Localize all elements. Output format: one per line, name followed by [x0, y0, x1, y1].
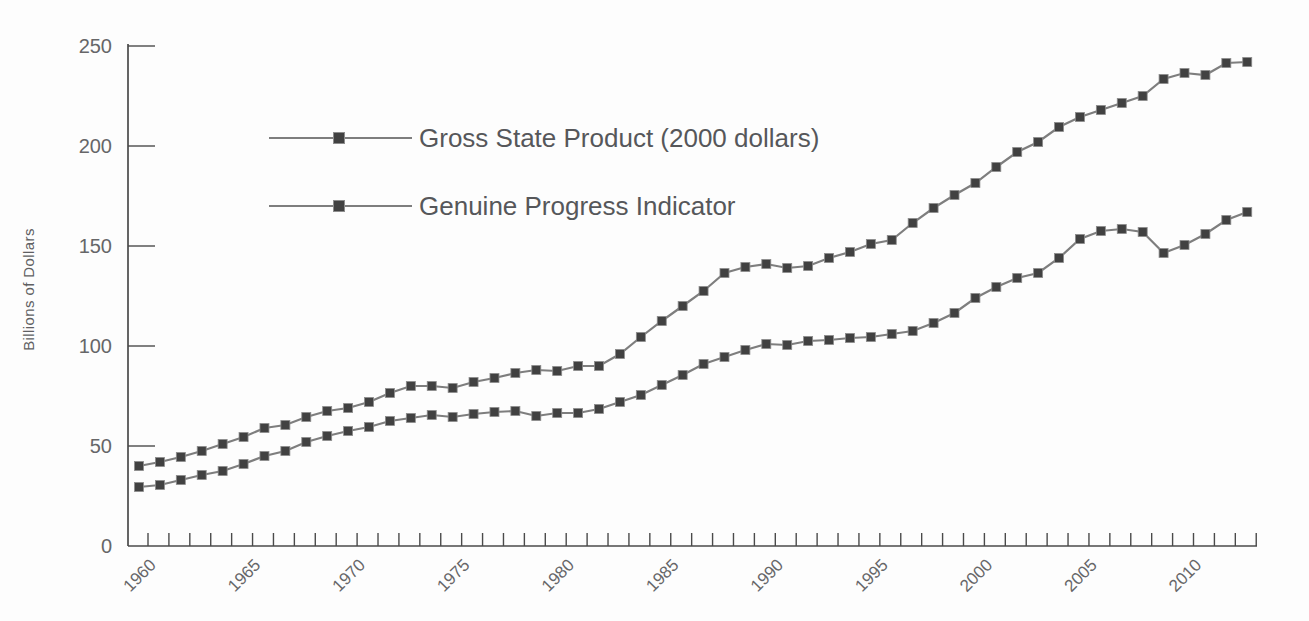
- gsp-data-marker: [1243, 58, 1252, 67]
- y-tick-label: 200: [79, 135, 112, 157]
- gpi-data-marker: [302, 438, 311, 447]
- x-tick-label: 1995: [851, 555, 891, 595]
- gpi-data-marker: [720, 353, 729, 362]
- gpi-data-marker: [344, 427, 353, 436]
- gsp-data-marker: [197, 447, 206, 456]
- gpi-data-marker: [406, 414, 415, 423]
- gpi-data-marker: [1075, 235, 1084, 244]
- gsp-data-marker: [385, 389, 394, 398]
- gpi-data-marker: [553, 409, 562, 418]
- gsp-data-marker: [1159, 75, 1168, 84]
- gsp-data-marker: [699, 287, 708, 296]
- gsp-data-marker: [992, 163, 1001, 172]
- gpi-data-marker: [155, 481, 164, 490]
- gpi-data-marker: [783, 341, 792, 350]
- gpi-data-marker: [1117, 225, 1126, 234]
- chart-figure: 0501001502002501960196519701975198019851…: [0, 0, 1309, 621]
- x-tick-label: 1965: [224, 555, 264, 595]
- legend-label-gpi: Genuine Progress Indicator: [419, 191, 736, 222]
- gsp-data-marker: [490, 374, 499, 383]
- gpi-data-marker: [908, 327, 917, 336]
- gpi-data-marker: [866, 333, 875, 342]
- gsp-data-marker: [887, 236, 896, 245]
- gsp-data-marker: [1201, 71, 1210, 80]
- x-tick-label: 2010: [1165, 555, 1205, 595]
- x-tick-label: 1985: [642, 555, 682, 595]
- gpi-data-marker: [1222, 216, 1231, 225]
- gsp-data-marker: [448, 384, 457, 393]
- gsp-data-marker: [615, 350, 624, 359]
- gpi-data-marker: [365, 423, 374, 432]
- y-tick-label: 100: [79, 335, 112, 357]
- gpi-data-marker: [260, 452, 269, 461]
- gsp-data-marker: [1075, 113, 1084, 122]
- gpi-data-marker: [323, 432, 332, 441]
- legend-item-gsp: Gross State Product (2000 dollars): [269, 121, 819, 155]
- y-axis-title: Billions of Dollars: [20, 210, 37, 370]
- gsp-data-marker: [845, 248, 854, 257]
- gsp-data-marker: [532, 366, 541, 375]
- gsp-data-marker: [908, 219, 917, 228]
- gsp-data-marker: [281, 421, 290, 430]
- gpi-data-marker: [427, 411, 436, 420]
- gsp-data-marker: [783, 264, 792, 273]
- x-tick-label: 1990: [747, 555, 787, 595]
- gsp-data-marker: [218, 440, 227, 449]
- gsp-data-marker: [678, 302, 687, 311]
- gpi-data-marker: [699, 360, 708, 369]
- gpi-data-marker: [741, 346, 750, 355]
- gpi-data-marker: [636, 391, 645, 400]
- gpi-data-marker: [887, 330, 896, 339]
- gsp-data-marker: [1034, 138, 1043, 147]
- gpi-data-marker: [1201, 230, 1210, 239]
- gpi-data-marker: [804, 337, 813, 346]
- gsp-data-marker: [302, 413, 311, 422]
- gsp-data-marker: [950, 191, 959, 200]
- x-tick-label: 1975: [433, 555, 473, 595]
- legend-square-marker-icon: [334, 201, 344, 211]
- gpi-data-marker: [1034, 269, 1043, 278]
- gsp-data-marker: [1117, 99, 1126, 108]
- gpi-data-marker: [971, 294, 980, 303]
- y-tick-label: 250: [79, 35, 112, 57]
- gpi-data-marker: [1138, 228, 1147, 237]
- gpi-data-marker: [1096, 227, 1105, 236]
- legend-label-gsp: Gross State Product (2000 dollars): [419, 123, 819, 154]
- gsp-data-marker: [323, 407, 332, 416]
- gsp-data-marker: [511, 369, 520, 378]
- gpi-data-marker: [239, 460, 248, 469]
- gpi-data-marker: [1055, 254, 1064, 263]
- gsp-data-marker: [971, 179, 980, 188]
- x-tick-label: 1960: [120, 555, 160, 595]
- gsp-data-marker: [1096, 106, 1105, 115]
- gsp-data-marker: [720, 269, 729, 278]
- gpi-data-marker: [929, 319, 938, 328]
- y-tick-label: 150: [79, 235, 112, 257]
- gpi-data-marker: [532, 412, 541, 421]
- gsp-data-marker: [469, 378, 478, 387]
- gpi-data-marker: [574, 409, 583, 418]
- legend-line-sample-gpi: [269, 189, 412, 223]
- x-tick-label: 1980: [538, 555, 578, 595]
- gpi-data-marker: [825, 336, 834, 345]
- legend-item-gpi: Genuine Progress Indicator: [269, 189, 736, 223]
- gsp-data-marker: [741, 263, 750, 272]
- gsp-data-marker: [1138, 92, 1147, 101]
- gsp-data-marker: [657, 317, 666, 326]
- gsp-data-marker: [406, 382, 415, 391]
- gsp-data-marker: [825, 254, 834, 263]
- gsp-data-marker: [595, 362, 604, 371]
- gsp-data-marker: [636, 333, 645, 342]
- gpi-data-marker: [218, 467, 227, 476]
- gsp-data-marker: [553, 367, 562, 376]
- gpi-data-marker: [992, 283, 1001, 292]
- gsp-data-marker: [176, 453, 185, 462]
- gpi-data-marker: [197, 471, 206, 480]
- gpi-data-marker: [1013, 274, 1022, 283]
- gsp-data-marker: [1055, 123, 1064, 132]
- gpi-data-marker: [595, 405, 604, 414]
- gpi-data-marker: [1159, 249, 1168, 258]
- gsp-data-marker: [866, 240, 875, 249]
- gsp-data-marker: [804, 262, 813, 271]
- x-tick-label: 2005: [1061, 555, 1101, 595]
